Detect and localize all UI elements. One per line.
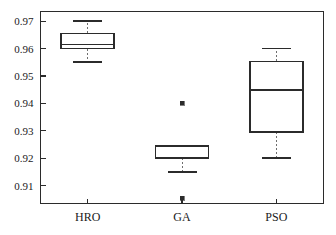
- x-axis-tick-labels: HROGAPSO: [75, 210, 288, 224]
- outlier-point: [180, 101, 184, 105]
- x-tick-label-hro: HRO: [75, 210, 101, 224]
- boxplot-svg: 0.910.920.930.940.950.960.97 HROGAPSO: [0, 0, 336, 235]
- y-tick-label: 0.97: [14, 15, 34, 27]
- outlier-point: [180, 196, 184, 200]
- plot-frame: [41, 12, 324, 204]
- y-tick-label: 0.92: [14, 152, 33, 164]
- boxplot-figure: 0.910.920.930.940.950.960.97 HROGAPSO: [0, 0, 336, 235]
- x-tick-label-pso: PSO: [265, 210, 287, 224]
- y-tick-label: 0.91: [14, 180, 33, 192]
- y-axis-tick-labels: 0.910.920.930.940.950.960.97: [14, 15, 34, 192]
- y-tick-label: 0.93: [14, 125, 34, 137]
- y-tick-label: 0.94: [14, 97, 34, 109]
- y-tick-label: 0.96: [14, 43, 34, 55]
- x-tick-label-ga: GA: [173, 210, 191, 224]
- y-tick-label: 0.95: [14, 70, 34, 82]
